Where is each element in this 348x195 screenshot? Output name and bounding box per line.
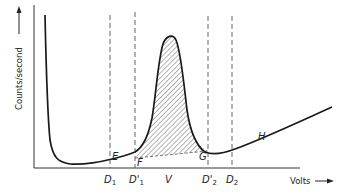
y-arrow-icon [17,6,22,13]
x-axis-label: Volts [290,176,311,186]
label-g: G [199,151,207,162]
label-e: E [112,151,119,162]
x-arrow-icon [327,179,334,184]
tick-d2-prime: D'2 [202,174,217,187]
tick-v: V [165,174,173,185]
label-h: H [258,131,266,142]
label-f: F [137,157,143,168]
tick-d2: D2 [226,174,238,187]
tick-d1-prime: D'1 [129,174,144,187]
chart: Counts/second Volts E F G H D1 D'1 V D'2… [0,0,348,195]
tick-d1: D1 [104,174,116,187]
y-axis-label: Counts/second [14,47,24,110]
svg-text:Counts/second: Counts/second [14,47,24,110]
